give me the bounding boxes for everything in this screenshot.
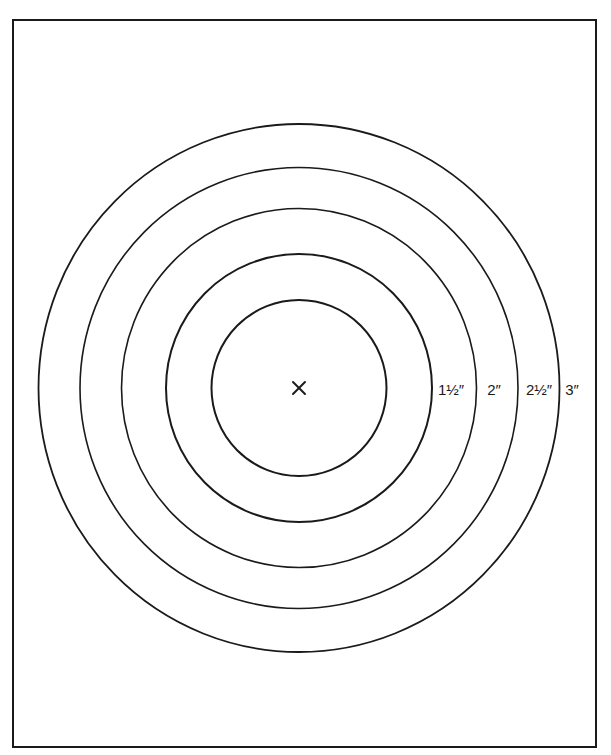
ring-label-2-5: 2½″ (526, 381, 553, 398)
ring-label-2: 2″ (487, 381, 501, 398)
ring-size-labels: 1½″ 2″ 2½″ 3″ (438, 381, 580, 398)
ring-label-3: 3″ (565, 381, 579, 398)
concentric-circles-diagram: 1½″ 2″ 2½″ 3″ (0, 0, 611, 755)
ring-label-1-5: 1½″ (438, 381, 465, 398)
center-mark-icon (293, 382, 305, 394)
